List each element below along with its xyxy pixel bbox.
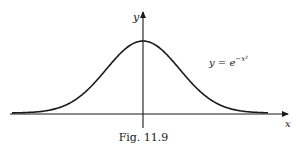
y-axis-label: y	[133, 12, 139, 23]
figure-caption: Fig. 11.9	[0, 131, 297, 144]
curve-equation-label: y = e−x²	[209, 55, 248, 68]
caption-text: Fig. 11.9	[119, 131, 169, 144]
gaussian-curve	[12, 41, 268, 113]
x-axis-label: x	[285, 119, 291, 129]
equation-exponent: −x²	[235, 55, 248, 63]
equation-base: y = e	[209, 57, 235, 68]
